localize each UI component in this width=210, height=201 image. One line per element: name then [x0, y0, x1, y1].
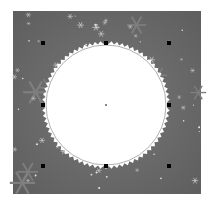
handle-top-right[interactable] [167, 41, 171, 45]
handle-bottom-center[interactable] [104, 164, 108, 168]
handle-top-left[interactable] [41, 41, 45, 45]
center-point-icon[interactable] [105, 104, 107, 106]
handle-bottom-left[interactable] [41, 164, 45, 168]
handle-middle-left[interactable] [41, 103, 45, 107]
handle-top-center[interactable] [104, 41, 108, 45]
editor-canvas[interactable] [0, 0, 210, 201]
handle-bottom-right[interactable] [167, 164, 171, 168]
handle-middle-right[interactable] [167, 103, 171, 107]
